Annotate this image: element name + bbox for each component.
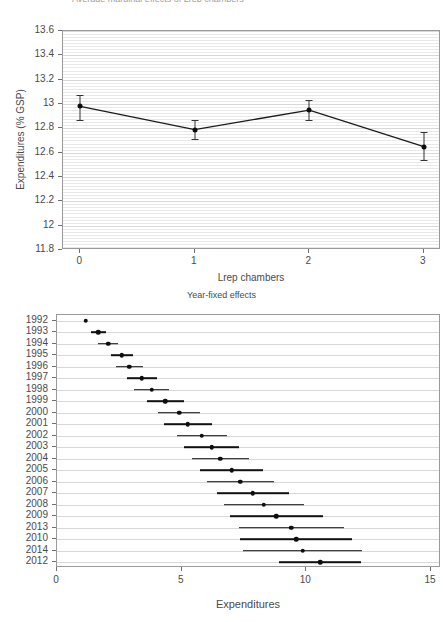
- y-axis-year-label: 2004: [2, 453, 48, 463]
- gridline: [57, 447, 439, 448]
- gridline: [63, 107, 439, 108]
- x-axis-tick-label: 1: [174, 256, 214, 266]
- data-point-marker: [199, 434, 204, 439]
- gridline: [63, 226, 439, 227]
- data-point-marker: [177, 411, 182, 416]
- y-axis-year-label: 2014: [2, 545, 48, 555]
- y-axis-year-label: 2013: [2, 522, 48, 532]
- y-axis-tick: [58, 152, 62, 153]
- gridline: [57, 562, 439, 563]
- y-axis-tick: [52, 343, 56, 344]
- data-point-marker: [294, 537, 299, 542]
- gridline: [63, 95, 439, 96]
- gridline: [63, 235, 439, 236]
- gridline: [63, 195, 439, 196]
- gridline: [63, 156, 439, 157]
- gridline: [63, 80, 439, 81]
- y-axis-year-label: 1999: [2, 395, 48, 405]
- data-point-marker: [78, 104, 83, 109]
- clipped-figure-title: Average marginal effects of Lrep chamber…: [72, 0, 372, 2]
- data-point-marker: [163, 399, 168, 404]
- gridline: [63, 171, 439, 172]
- gridline: [63, 189, 439, 190]
- error-bar-cap-lower: [77, 120, 84, 121]
- y-axis-tick: [52, 389, 56, 390]
- error-bar-cap-lower: [191, 139, 198, 140]
- y-axis-tick: [52, 412, 56, 413]
- gridline: [57, 413, 439, 414]
- y-axis-tick: [58, 225, 62, 226]
- bottom-x-axis-title: Expenditures: [56, 599, 440, 610]
- top-plot-area: [62, 30, 440, 249]
- data-point-marker: [274, 514, 279, 519]
- y-axis-year-label: 1993: [2, 326, 48, 336]
- x-axis-tick: [79, 249, 80, 253]
- y-axis-year-label: 1996: [2, 361, 48, 371]
- gridline: [63, 43, 439, 44]
- y-axis-tick: [58, 103, 62, 104]
- gridline: [63, 119, 439, 120]
- gridline: [63, 77, 439, 78]
- error-bar-cap-upper: [420, 132, 427, 133]
- gridline: [63, 55, 439, 56]
- gridline: [63, 52, 439, 53]
- data-point-marker: [300, 549, 305, 554]
- gridline: [63, 168, 439, 169]
- x-axis-tick-label: 10: [285, 575, 325, 585]
- data-point-marker: [83, 319, 88, 324]
- gridline: [63, 92, 439, 93]
- gridline: [57, 390, 439, 391]
- gridline: [63, 204, 439, 205]
- data-point-marker: [262, 503, 267, 508]
- gridline: [63, 174, 439, 175]
- data-point-marker: [106, 342, 111, 347]
- y-axis-tick: [58, 249, 62, 250]
- data-point-marker: [120, 353, 125, 358]
- error-bar-cap-upper: [306, 100, 313, 101]
- y-axis-tick: [52, 377, 56, 378]
- data-point-marker: [289, 526, 294, 531]
- x-axis-tick-label: 15: [410, 575, 443, 585]
- gridline: [63, 137, 439, 138]
- gridline: [63, 46, 439, 47]
- gridline: [63, 64, 439, 65]
- gridline: [63, 67, 439, 68]
- x-axis-tick-label: 0: [36, 575, 76, 585]
- x-axis-tick-label: 2: [288, 256, 328, 266]
- data-point-marker: [186, 422, 191, 427]
- gridline: [63, 86, 439, 87]
- y-axis-year-label: 2012: [2, 556, 48, 566]
- gridline: [63, 210, 439, 211]
- y-axis-tick: [52, 458, 56, 459]
- gridline: [63, 201, 439, 202]
- data-point-marker: [307, 108, 312, 113]
- gridline: [63, 159, 439, 160]
- gridline: [63, 128, 439, 129]
- y-axis-tick: [58, 54, 62, 55]
- data-point-marker: [229, 468, 234, 473]
- y-axis-tick: [52, 550, 56, 551]
- y-axis-tick: [52, 492, 56, 493]
- gridline: [63, 165, 439, 166]
- y-axis-tick: [52, 320, 56, 321]
- y-axis-year-label: 2003: [2, 441, 48, 451]
- gridline: [63, 229, 439, 230]
- gridline: [63, 192, 439, 193]
- y-axis-tick: [52, 527, 56, 528]
- gridline: [63, 131, 439, 132]
- y-axis-tick: [52, 423, 56, 424]
- gridline: [63, 58, 439, 59]
- x-axis-tick: [305, 567, 306, 571]
- data-point-marker: [238, 480, 243, 485]
- gridline: [63, 207, 439, 208]
- y-axis-year-label: 2005: [2, 464, 48, 474]
- gridline: [63, 147, 439, 148]
- gridline: [63, 153, 439, 154]
- error-bar-cap-upper: [77, 95, 84, 96]
- y-axis-tick: [52, 515, 56, 516]
- y-axis-tick: [52, 446, 56, 447]
- gridline: [63, 217, 439, 218]
- gridline: [63, 232, 439, 233]
- y-axis-tick: [52, 538, 56, 539]
- gridline: [63, 162, 439, 163]
